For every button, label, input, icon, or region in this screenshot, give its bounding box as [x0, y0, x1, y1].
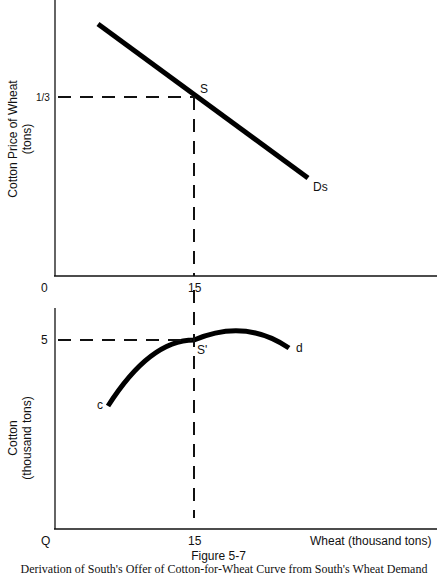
point-s-label: S: [200, 82, 208, 96]
point-s-prime-label: S': [197, 343, 207, 357]
ds-curve-label: Ds: [313, 180, 328, 194]
figure-caption: Derivation of South's Offer of Cotton-fo…: [0, 562, 437, 577]
bottom-y-tick-label: 5: [41, 333, 48, 347]
top-origin-label: 0: [41, 281, 48, 295]
top-y-tick-label: 1/3: [36, 92, 50, 103]
bottom-x-axis-label: Wheat (thousand tons): [310, 534, 431, 548]
figure-number: Figure 5-7: [0, 549, 437, 563]
bottom-y-label-line1: Cotton: [6, 388, 20, 488]
top-x-tick-label: 15: [188, 281, 201, 295]
curve-start-c-label: c: [97, 398, 103, 412]
top-y-axis-label: Cotton Price of Wheat (tons): [6, 79, 34, 199]
top-y-label-line2: (tons): [20, 79, 34, 199]
top-y-label-line1: Cotton Price of Wheat: [6, 79, 20, 199]
demand-curve-ds: [98, 24, 308, 178]
bottom-y-axis-label: Cotton (thousand tons): [6, 388, 34, 488]
offer-curve-cd: [108, 331, 289, 406]
curve-end-d-label: d: [296, 341, 303, 355]
bottom-x-tick-label: 15: [188, 534, 201, 548]
bottom-origin-label: Q: [41, 534, 50, 548]
bottom-y-label-line2: (thousand tons): [20, 388, 34, 488]
